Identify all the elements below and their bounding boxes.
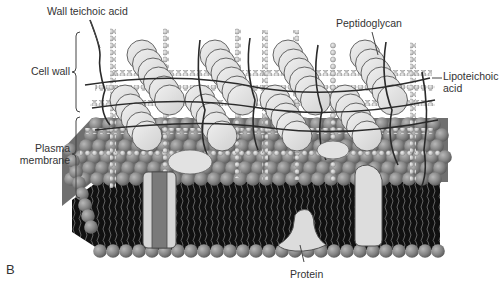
panel-letter: B bbox=[6, 262, 15, 277]
label-cell-wall: Cell wall bbox=[10, 65, 70, 77]
label-protein: Protein bbox=[290, 268, 323, 280]
label-lipoteichoic-acid-line1: Lipoteichoic bbox=[443, 70, 498, 82]
transmembrane-protein bbox=[355, 165, 382, 246]
cell-envelope-diagram bbox=[0, 0, 500, 281]
label-wall-teichoic-acid: Wall teichoic acid bbox=[47, 5, 128, 17]
label-plasma-membrane-line2: membrane bbox=[10, 154, 70, 166]
cell-wall-bracket bbox=[72, 32, 80, 112]
channel-protein bbox=[143, 172, 176, 248]
label-peptidoglycan: Peptidoglycan bbox=[336, 17, 402, 29]
label-plasma-membrane-line1: Plasma bbox=[10, 142, 70, 154]
plasma-membrane bbox=[62, 117, 452, 258]
label-lipoteichoic-acid-line2: acid bbox=[443, 82, 462, 94]
